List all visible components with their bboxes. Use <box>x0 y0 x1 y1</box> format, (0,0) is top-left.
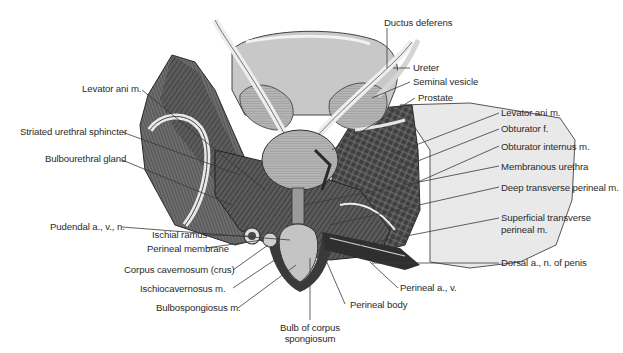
label-bulbourethral-gland: Bulbourethral gland <box>45 153 126 164</box>
label-levator-ani-right: Levator ani m. <box>501 107 560 118</box>
label-levator-ani-left: Levator ani m. <box>82 83 141 94</box>
label-superficial-transverse-perineal-line2: perineal m. <box>501 224 547 235</box>
label-corpus-cavernosum: Corpus cavernosum (crus) <box>124 264 235 275</box>
label-ductus-deferens: Ductus deferens <box>384 17 453 28</box>
label-perineal-body: Perineal body <box>350 299 408 310</box>
label-perineal-membrane: Perineal membrane <box>147 243 229 254</box>
label-bulb-corpus-spongiosum-line2: spongiosum <box>285 333 336 344</box>
label-pudendal: Pudendal a., v., n. <box>50 221 125 232</box>
label-bulbospongiosus: Bulbospongiosus m. <box>156 302 241 313</box>
membranous-urethra <box>292 188 304 224</box>
label-ischiocavernosus: Ischiocavernosus m. <box>140 283 226 294</box>
label-membranous-urethra: Membranous urethra <box>501 161 589 172</box>
corpus-cavernosum-crus <box>263 233 277 247</box>
label-ureter: Ureter <box>413 62 440 73</box>
label-perineal-av: Perineal a., v. <box>400 282 456 293</box>
label-striated-urethral-sphincter: Striated urethral sphincter <box>20 126 128 137</box>
label-prostate: Prostate <box>418 92 453 103</box>
anatomy-illustration: Levator ani m. Striated urethral sphinct… <box>0 0 623 353</box>
label-obturator-internus: Obturator internus m. <box>501 141 590 152</box>
label-bulb-corpus-spongiosum: Bulb of corpus <box>280 322 340 333</box>
label-seminal-vesicle: Seminal vesicle <box>413 76 478 87</box>
label-deep-transverse-perineal: Deep transverse perineal m. <box>501 182 619 193</box>
label-dorsal-penis: Dorsal a., n. of penis <box>501 257 587 268</box>
label-superficial-transverse-perineal: Superficial transverse <box>501 212 591 223</box>
label-ischial-ramus: Ischial ramus <box>152 229 208 240</box>
label-obturator-f: Obturator f. <box>501 123 548 134</box>
